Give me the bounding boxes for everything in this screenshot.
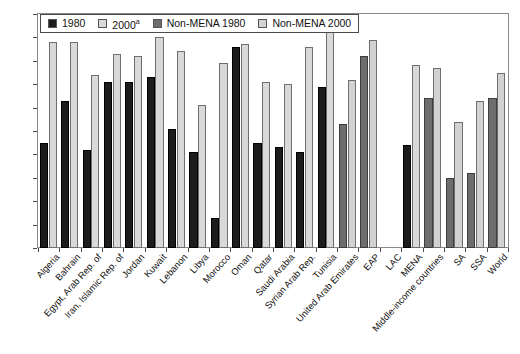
y-axis-tick-mark <box>33 108 37 109</box>
bar-group <box>487 14 508 248</box>
bar <box>326 30 334 248</box>
chart-legend: 19802000aNon-MENA 1980Non-MENA 2000 <box>40 14 359 33</box>
bar <box>403 145 411 248</box>
x-axis-label: SA <box>451 252 467 268</box>
bar <box>198 105 206 248</box>
bar-group <box>59 14 80 248</box>
bar <box>318 87 326 248</box>
bar-group <box>230 14 251 248</box>
y-axis-tick-mark <box>33 37 37 38</box>
x-axis-labels: AlgeriaBahrainEgypt, Arab Rep. ofIran, I… <box>38 252 508 352</box>
bar <box>284 84 292 248</box>
bar-group <box>166 14 187 248</box>
x-axis-tick-mark <box>508 248 509 252</box>
bar <box>147 77 155 248</box>
bar <box>211 218 219 248</box>
bar <box>296 152 304 248</box>
bar <box>113 54 121 248</box>
y-axis-tick-mark <box>33 131 37 132</box>
bar <box>232 47 240 248</box>
legend-item[interactable]: 1980 <box>48 18 85 29</box>
bar-group <box>316 14 337 248</box>
y-axis-tick-mark <box>33 225 37 226</box>
bar <box>91 75 99 248</box>
x-axis-label-text: World <box>486 252 510 277</box>
bar <box>241 44 249 248</box>
bar-group <box>273 14 294 248</box>
bar-group <box>38 14 59 248</box>
y-axis-tick-mark <box>33 84 37 85</box>
bar <box>476 101 484 248</box>
bar <box>339 124 347 248</box>
bar-group <box>188 14 209 248</box>
bar <box>83 150 91 248</box>
bar <box>348 80 356 248</box>
bar-chart: 1201101009080706050403020 19802000aNon-M… <box>0 0 520 354</box>
x-axis-label-text: SA <box>451 252 467 268</box>
bar <box>446 178 454 248</box>
legend-item[interactable]: 2000a <box>98 16 139 31</box>
legend-swatch-icon <box>153 19 162 28</box>
y-axis-tick-mark <box>33 14 37 15</box>
bar-group <box>401 14 422 248</box>
bar <box>253 143 261 248</box>
x-axis-label-text: Oman <box>229 252 253 278</box>
bar <box>189 152 197 248</box>
bar-group <box>465 14 486 248</box>
legend-label: 2000a <box>112 16 139 31</box>
bar-group <box>444 14 465 248</box>
legend-item[interactable]: Non-MENA 1980 <box>153 18 246 29</box>
bar <box>125 82 133 248</box>
bar <box>275 147 283 248</box>
legend-swatch-icon <box>258 19 267 28</box>
bar <box>497 73 505 249</box>
y-axis-tick-mark <box>33 248 37 249</box>
bar-group <box>123 14 144 248</box>
y-axis-tick-mark <box>33 61 37 62</box>
bar <box>305 47 313 248</box>
y-axis-tick-mark <box>33 201 37 202</box>
bar <box>488 98 496 248</box>
legend-label: Non-MENA 2000 <box>272 18 351 29</box>
legend-item[interactable]: Non-MENA 2000 <box>258 18 351 29</box>
bar <box>262 82 270 248</box>
bar <box>49 42 57 248</box>
y-axis-tick-mark <box>33 154 37 155</box>
bar-group <box>209 14 230 248</box>
bar <box>134 56 142 248</box>
bar-group <box>358 14 379 248</box>
y-axis: 1201101009080706050403020 <box>0 0 37 260</box>
y-axis-tick-mark <box>33 178 37 179</box>
bar-group <box>252 14 273 248</box>
bar <box>168 129 176 248</box>
bar-group <box>81 14 102 248</box>
bars-layer <box>38 14 508 248</box>
bar-group <box>294 14 315 248</box>
bar <box>412 65 420 248</box>
x-axis-label: Oman <box>229 252 253 278</box>
x-axis-label: EAP <box>362 252 382 273</box>
bar-group <box>102 14 123 248</box>
bar <box>433 68 441 248</box>
bar <box>155 37 163 248</box>
x-axis-label: World <box>486 252 510 277</box>
legend-swatch-icon <box>98 19 107 28</box>
legend-label: 1980 <box>62 18 85 29</box>
x-axis-label-text: EAP <box>362 252 382 273</box>
bar-group <box>423 14 444 248</box>
bar <box>424 98 432 248</box>
bar <box>104 82 112 248</box>
legend-swatch-icon <box>48 19 57 28</box>
bar <box>360 56 368 248</box>
bar <box>467 173 475 248</box>
bar <box>219 63 227 248</box>
bar-group <box>380 14 401 248</box>
bar-group <box>145 14 166 248</box>
bar <box>177 51 185 248</box>
bar-group <box>337 14 358 248</box>
bar <box>40 143 48 248</box>
legend-label-superscript: a <box>136 18 140 25</box>
legend-label: Non-MENA 1980 <box>167 18 246 29</box>
bar <box>61 101 69 248</box>
bar <box>454 122 462 248</box>
